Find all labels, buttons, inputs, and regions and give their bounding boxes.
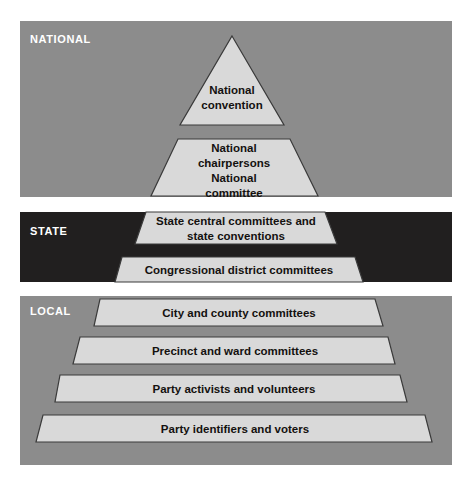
tier-label-precinct-and-ward-committees: Precinct and ward committees	[152, 345, 318, 357]
band-label-local: LOCAL	[30, 305, 71, 317]
tier-label-line: state conventions	[187, 230, 285, 242]
tier-label-congressional-district-committees: Congressional district committees	[145, 264, 334, 276]
tier-label-city-and-county-committees: City and county committees	[162, 307, 315, 319]
tier-label-line: National	[211, 142, 256, 154]
tier-label-line: National	[211, 172, 256, 184]
tier-label-line: Party activists and volunteers	[153, 383, 316, 395]
tier-label-line: City and county committees	[162, 307, 315, 319]
tier-label-line: chairpersons	[198, 157, 270, 169]
tier-label-line: convention	[201, 99, 262, 111]
band-label-national: NATIONAL	[30, 33, 91, 45]
tier-label-line: Party identifiers and voters	[161, 423, 309, 435]
pyramid-diagram-canvas: NATIONALSTATELOCALNationalconventionNati…	[0, 0, 472, 487]
tier-label-line: National	[209, 84, 254, 96]
tier-label-line: committee	[205, 187, 263, 199]
tier-label-line: State central committees and	[156, 215, 316, 227]
band-label-state: STATE	[30, 225, 67, 237]
tier-label-line: Congressional district committees	[145, 264, 334, 276]
tier-label-line: Precinct and ward committees	[152, 345, 318, 357]
tier-label-party-activists-and-volunteers: Party activists and volunteers	[153, 383, 316, 395]
party-organization-pyramid-figure: NATIONALSTATELOCALNationalconventionNati…	[0, 0, 472, 487]
tier-label-party-identifiers-and-voters: Party identifiers and voters	[161, 423, 309, 435]
